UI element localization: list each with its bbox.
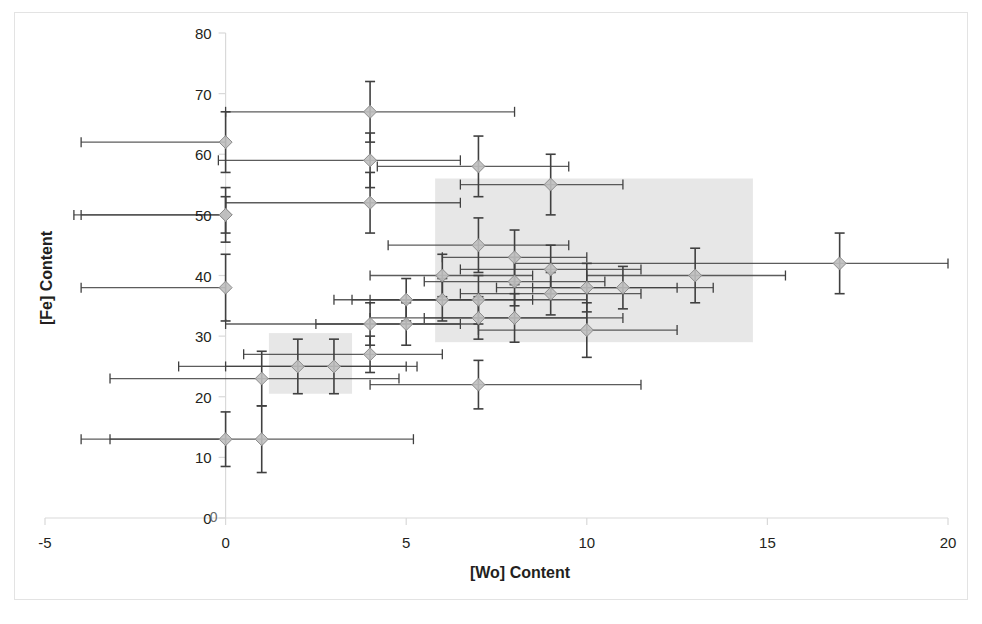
error-bar bbox=[81, 254, 230, 321]
y-tick-label: 20 bbox=[195, 389, 212, 406]
data-point-marker bbox=[833, 257, 846, 270]
origin-label: 0 bbox=[210, 509, 218, 525]
data-point-marker bbox=[400, 293, 413, 306]
y-tick-label: 10 bbox=[195, 449, 212, 466]
data-point-marker bbox=[255, 372, 268, 385]
error-bar bbox=[226, 172, 461, 233]
data-point-marker bbox=[219, 281, 232, 294]
error-bar bbox=[81, 112, 230, 173]
x-axis-title: [Wo] Content bbox=[470, 564, 571, 581]
x-tick-label: 15 bbox=[759, 534, 776, 551]
x-tick-label: 20 bbox=[940, 534, 957, 551]
shaded-region-layer bbox=[269, 179, 753, 394]
x-tick-label: 0 bbox=[221, 534, 229, 551]
data-point-marker bbox=[472, 378, 485, 391]
data-point-marker bbox=[364, 196, 377, 209]
x-tick-label: -5 bbox=[38, 534, 51, 551]
chart-container: -505101520010203040506070800 [Wo] Conten… bbox=[0, 0, 982, 624]
data-point-marker bbox=[472, 160, 485, 173]
error-bar bbox=[370, 360, 641, 409]
x-tick-label: 10 bbox=[578, 534, 595, 551]
error-bar bbox=[110, 351, 399, 406]
y-tick-label: 30 bbox=[195, 328, 212, 345]
data-point-marker bbox=[219, 136, 232, 149]
y-tick-label: 80 bbox=[195, 25, 212, 42]
data-point-marker bbox=[364, 318, 377, 331]
x-tick-label: 5 bbox=[402, 534, 410, 551]
data-point-marker bbox=[364, 348, 377, 361]
shaded-region-lower-field bbox=[269, 333, 352, 394]
y-tick-label: 40 bbox=[195, 268, 212, 285]
data-point-marker bbox=[219, 208, 232, 221]
y-tick-label: 50 bbox=[195, 207, 212, 224]
data-point-marker bbox=[219, 433, 232, 446]
y-tick-label: 60 bbox=[195, 146, 212, 163]
y-axis-title: [Fe] Content bbox=[38, 230, 55, 325]
data-point-marker bbox=[255, 433, 268, 446]
data-point-marker bbox=[364, 154, 377, 167]
y-tick-label: 70 bbox=[195, 86, 212, 103]
error-bar bbox=[218, 133, 460, 188]
scatter-plot: -505101520010203040506070800 [Wo] Conten… bbox=[0, 0, 982, 624]
data-point-marker bbox=[400, 318, 413, 331]
data-point-marker bbox=[364, 105, 377, 118]
